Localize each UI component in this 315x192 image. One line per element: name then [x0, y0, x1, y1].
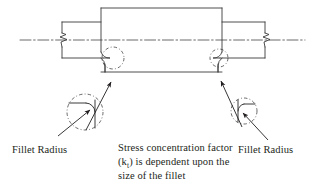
leader-arrow-icon-fillet-left — [58, 110, 90, 136]
fillet-arc-right — [213, 52, 222, 72]
leader-lines — [86, 81, 242, 130]
note-line-1: Stress concentration factor — [118, 141, 242, 155]
blowup-detail-right — [238, 100, 255, 122]
note-stress-concentration: Stress concentration factor (kt) is depe… — [118, 141, 242, 183]
label-fillet-radius-left: Fillet Radius — [12, 143, 67, 157]
note-line-3: size of the fillet — [118, 169, 242, 183]
note-line-2-prefix: (k — [118, 156, 127, 167]
leader-arrow-icon-left — [86, 82, 111, 130]
leader-arrow-icon-right — [221, 81, 242, 127]
fillet-stress-concentration-figure: Fillet Radius Fillet Radius Stress conce… — [0, 0, 315, 192]
note-line-2: (kt) is dependent upon the — [118, 155, 242, 169]
label-fillet-radius-right: Fillet Radius — [238, 143, 293, 157]
note-line-2-suffix: ) is dependent upon the — [129, 156, 229, 167]
